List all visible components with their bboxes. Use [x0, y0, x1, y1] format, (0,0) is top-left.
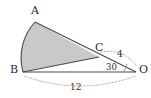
vertex-label-b: B [10, 64, 18, 75]
angle-label-o: 30 [106, 63, 117, 72]
vertex-label-o: O [139, 64, 148, 75]
geometry-figure: A B C O 4 12 30 [0, 0, 151, 98]
vertex-label-c: C [95, 42, 103, 53]
length-label-co: 4 [117, 50, 123, 59]
angle-arc-o [123, 64, 127, 72]
length-label-bo: 12 [70, 83, 81, 92]
vertex-label-a: A [31, 5, 39, 16]
